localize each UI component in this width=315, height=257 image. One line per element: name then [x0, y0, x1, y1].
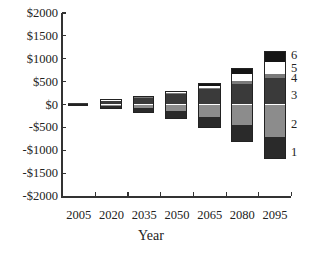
x-tick: [258, 192, 259, 196]
y-tick: [62, 12, 66, 13]
bar-2050: [165, 0, 187, 257]
x-tick: [95, 192, 96, 196]
y-tick: [62, 196, 66, 197]
y-tick: [62, 150, 66, 151]
bar-outline: [231, 68, 253, 142]
bar-outline: [165, 91, 187, 119]
y-tick: [62, 35, 66, 36]
y-tick-label: $2000: [27, 7, 58, 19]
stacked-bar-chart: $2000$1500$1000$500$0-$500-$1000-$1500-$…: [0, 0, 315, 257]
bar-2020: [100, 0, 122, 257]
segment-label-5: 5: [291, 62, 297, 74]
segment-label-2: 2: [291, 118, 297, 130]
y-tick: [62, 173, 66, 174]
bar-outline: [198, 83, 221, 129]
y-tick-label: -$1500: [23, 167, 58, 179]
bar-outline: [68, 104, 88, 106]
y-tick: [62, 104, 66, 105]
segment-label-1: 1: [291, 146, 297, 158]
y-tick: [62, 81, 66, 82]
x-tick: [291, 192, 292, 196]
bar-2065: [198, 0, 221, 257]
x-axis-label: Year: [138, 228, 198, 244]
bar-2035: [133, 0, 154, 257]
y-tick-label: $0: [46, 99, 59, 111]
segment-label-3: 3: [291, 89, 297, 101]
x-tick: [160, 192, 161, 196]
bar-outline: [264, 51, 286, 160]
y-tick-label: -$2000: [23, 190, 58, 202]
bar-2095: [264, 0, 286, 257]
x-tick: [127, 192, 128, 196]
x-tick: [193, 192, 194, 196]
y-tick-label: $500: [33, 76, 58, 88]
segment-label-6: 6: [291, 49, 297, 61]
y-tick-label: $1500: [27, 30, 58, 42]
y-tick: [62, 58, 66, 59]
y-tick-label: -$500: [29, 121, 58, 133]
bar-outline: [100, 99, 122, 108]
y-tick-label: $1000: [27, 53, 58, 65]
y-tick-label: -$1000: [23, 144, 58, 156]
y-tick: [62, 127, 66, 128]
bar-outline: [133, 96, 154, 114]
bar-2005: [68, 0, 88, 257]
bar-2080: [231, 0, 253, 257]
x-tick: [226, 192, 227, 196]
